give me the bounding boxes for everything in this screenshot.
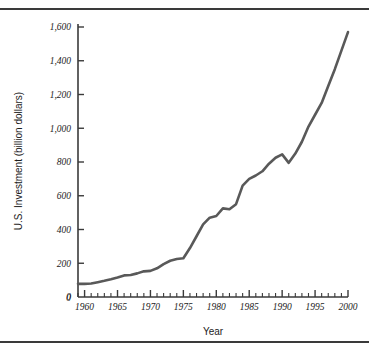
y-axis-tick-label: 200: [57, 259, 72, 269]
x-axis-tick-label: 2000: [339, 302, 358, 312]
y-axis-tick-label: 1,400: [50, 56, 72, 66]
figure-container: 02004006008001,0001,2001,4001,6000 19601…: [0, 0, 369, 353]
x-axis-tick-label: 1980: [207, 302, 226, 312]
line-chart: 02004006008001,0001,2001,4001,6000 19601…: [0, 0, 369, 353]
x-axis-tick-label: 1965: [108, 302, 127, 312]
y-axis-tick-label: 400: [57, 225, 72, 235]
y-axis-title: U.S. Investment (billion dollars): [13, 92, 24, 230]
y-axis-ticks: [78, 27, 84, 263]
x-axis-tick-label: 1970: [141, 302, 160, 312]
y-axis-tick-label: 1,600: [50, 22, 72, 32]
x-axis-tick-labels: 196019651970197519801985199019952000: [75, 302, 358, 312]
x-axis-title: Year: [203, 326, 224, 337]
x-axis-tick-label: 1975: [174, 302, 193, 312]
y-axis-origin-label: 0: [66, 293, 71, 303]
data-series-line: [78, 32, 348, 284]
x-axis-tick-label: 1960: [75, 302, 94, 312]
x-axis-tick-label: 1985: [240, 302, 259, 312]
y-axis-tick-label: 1,200: [50, 90, 72, 100]
y-axis-tick-labels: 02004006008001,0001,2001,4001,6000: [50, 22, 72, 303]
x-axis-tick-label: 1995: [306, 302, 325, 312]
y-axis-tick-label: 600: [57, 191, 72, 201]
y-axis-tick-label: 1,000: [50, 124, 72, 134]
x-axis-tick-label: 1990: [273, 302, 292, 312]
y-axis-tick-label: 800: [57, 157, 72, 167]
